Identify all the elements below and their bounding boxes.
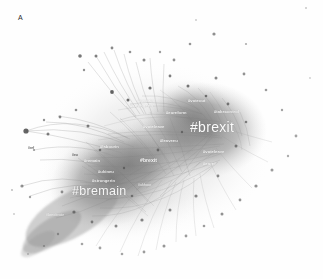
network-graph-canvas [0,0,323,279]
figure-panel: A [0,0,323,279]
